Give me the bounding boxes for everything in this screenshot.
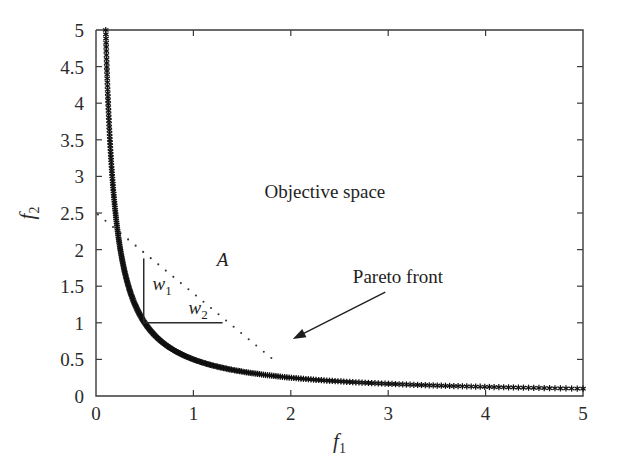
figure-container: 012345 00.511.522.533.544.55 Objective s… <box>0 0 618 466</box>
x-tick-label: 1 <box>189 403 199 424</box>
pareto-front-chart: 012345 00.511.522.533.544.55 Objective s… <box>0 0 618 466</box>
y-tick-label: 1 <box>75 313 85 334</box>
x-tick-label: 2 <box>286 403 296 424</box>
y-tick-label: 3.5 <box>60 130 84 151</box>
objective-space-label: Objective space <box>264 181 385 202</box>
y-tick-label: 0 <box>75 386 85 407</box>
y-tick-label: 0.5 <box>60 349 84 370</box>
x-tick-label: 4 <box>481 403 491 424</box>
y-tick-label: 3 <box>75 166 85 187</box>
y-tick-label: 1.5 <box>60 276 84 297</box>
x-tick-label: 0 <box>91 403 101 424</box>
y-tick-label: 5 <box>75 20 85 41</box>
x-tick-label: 3 <box>383 403 393 424</box>
y-tick-label: 2 <box>75 240 85 261</box>
y-tick-label: 2.5 <box>60 203 84 224</box>
y-tick-label: 4 <box>75 93 85 114</box>
pareto-front-label: Pareto front <box>353 266 444 287</box>
y-tick-label: 4.5 <box>60 57 84 78</box>
point-a-label: A <box>215 249 229 270</box>
x-tick-label: 5 <box>578 403 588 424</box>
